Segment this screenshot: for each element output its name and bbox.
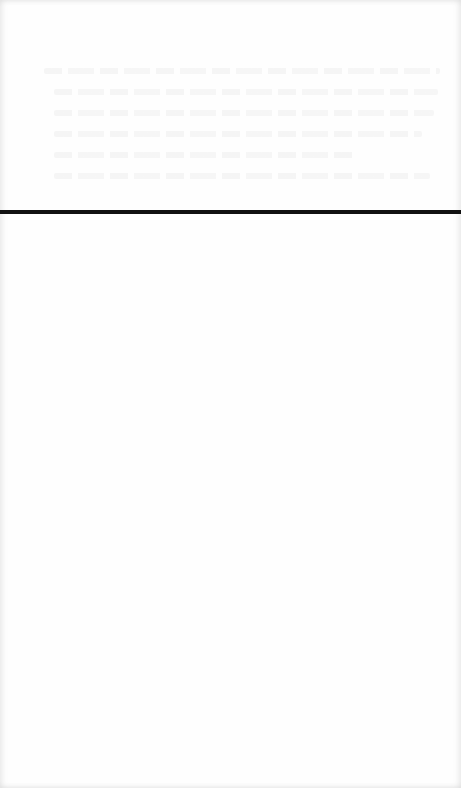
scanned-page [0, 0, 461, 788]
bleedthrough-line [54, 131, 422, 137]
bleedthrough-line [54, 173, 430, 179]
bleedthrough-line [54, 152, 354, 158]
bleedthrough-line [54, 110, 434, 116]
bleedthrough-text-block [40, 68, 440, 198]
bleedthrough-line [44, 68, 440, 74]
horizontal-rule [0, 210, 461, 214]
bleedthrough-line [54, 89, 438, 95]
